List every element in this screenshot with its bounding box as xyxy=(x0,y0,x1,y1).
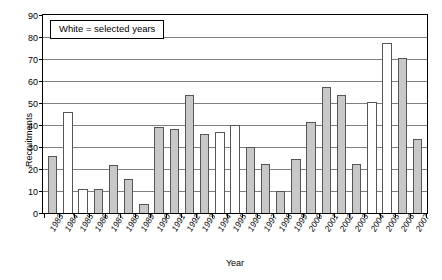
bar-slot xyxy=(197,15,212,213)
bar-slot xyxy=(136,15,151,213)
x-tick-label-slot: 1983 xyxy=(44,218,59,262)
x-tick-label-slot: 1994 xyxy=(212,218,227,262)
bar-slot xyxy=(258,15,273,213)
y-tick-label: 0 xyxy=(33,209,38,219)
y-tick-label: 50 xyxy=(28,99,38,109)
x-tick-label-slot: 1996 xyxy=(243,218,258,262)
bar-1992 xyxy=(185,95,194,213)
bar-2001 xyxy=(322,87,331,214)
y-tick: 0 xyxy=(5,213,43,214)
y-tick: 70 xyxy=(5,59,43,60)
bar-1984 xyxy=(63,112,72,213)
bar-1988 xyxy=(124,179,133,213)
bar-1997 xyxy=(261,164,270,214)
y-tick-label: 40 xyxy=(28,121,38,131)
bar-1983 xyxy=(48,156,57,213)
x-tick-label-slot: 1999 xyxy=(289,218,304,262)
y-tick-label: 80 xyxy=(28,33,38,43)
bar-slot xyxy=(349,15,364,213)
x-tick-label-slot: 1988 xyxy=(120,218,135,262)
bar-slot xyxy=(243,15,258,213)
x-tick-label-slot: 2007 xyxy=(411,218,426,262)
x-tick-label-slot: 1991 xyxy=(166,218,181,262)
x-tick-label-slot: 1985 xyxy=(75,218,90,262)
y-tick: 60 xyxy=(5,81,43,82)
bar-2007 xyxy=(413,139,422,213)
x-tick-label-slot: 2001 xyxy=(319,218,334,262)
bar-1996 xyxy=(246,147,255,213)
bar-chart: Recruitments 9080706050403020100 White =… xyxy=(0,0,442,280)
bar-2002 xyxy=(337,95,346,213)
x-tick-label-slot: 1997 xyxy=(258,218,273,262)
bar-1986 xyxy=(94,189,103,213)
bar-slot xyxy=(319,15,334,213)
bar-1998 xyxy=(276,191,285,213)
x-tick-label-slot: 1986 xyxy=(90,218,105,262)
bar-1993 xyxy=(200,134,209,213)
y-tick: 40 xyxy=(5,125,43,126)
bar-1999 xyxy=(291,159,300,213)
bar-slot xyxy=(106,15,121,213)
x-tick-label-slot: 2000 xyxy=(304,218,319,262)
bar-slot xyxy=(364,15,379,213)
y-tick: 20 xyxy=(5,169,43,170)
y-tick: 50 xyxy=(5,103,43,104)
bar-slot xyxy=(167,15,182,213)
legend-label: White = selected years xyxy=(59,23,155,34)
y-tick: 10 xyxy=(5,191,43,192)
x-tick-label-slot: 1987 xyxy=(105,218,120,262)
x-tick-label-slot: 1992 xyxy=(182,218,197,262)
bar-slot xyxy=(212,15,227,213)
bar-1991 xyxy=(170,129,179,213)
bar-2000 xyxy=(306,122,315,213)
x-tick-label-slot: 1998 xyxy=(273,218,288,262)
bar-slot xyxy=(334,15,349,213)
x-tick-label-slot: 1989 xyxy=(136,218,151,262)
bar-1987 xyxy=(109,165,118,213)
bar-slot xyxy=(45,15,60,213)
bar-1994 xyxy=(215,132,224,213)
bar-slot xyxy=(227,15,242,213)
bar-1985 xyxy=(78,189,87,213)
x-tick-label-slot: 1990 xyxy=(151,218,166,262)
bar-2004 xyxy=(367,102,376,213)
bar-slot xyxy=(273,15,288,213)
bar-2006 xyxy=(398,58,407,213)
bar-series xyxy=(43,15,427,213)
y-tick-label: 30 xyxy=(28,143,38,153)
y-tick-label: 90 xyxy=(28,11,38,21)
y-tick-label: 10 xyxy=(28,187,38,197)
bar-slot xyxy=(60,15,75,213)
y-tick: 30 xyxy=(5,147,43,148)
y-tick-label: 20 xyxy=(28,165,38,175)
x-tick-label-slot: 2006 xyxy=(395,218,410,262)
bar-slot xyxy=(303,15,318,213)
bar-2003 xyxy=(352,164,361,214)
y-tick-label: 60 xyxy=(28,77,38,87)
x-axis-tick-labels: 1983198419851986198719881989199019911992… xyxy=(42,218,428,262)
bar-slot xyxy=(395,15,410,213)
x-tick-label-slot: 1995 xyxy=(227,218,242,262)
bar-slot xyxy=(379,15,394,213)
bar-slot xyxy=(91,15,106,213)
y-tick: 90 xyxy=(5,15,43,16)
bar-slot xyxy=(410,15,425,213)
legend-box: White = selected years xyxy=(50,20,164,39)
bar-slot xyxy=(288,15,303,213)
x-tick-label-slot: 1993 xyxy=(197,218,212,262)
x-tick-label-slot: 1984 xyxy=(59,218,74,262)
y-tick-label: 70 xyxy=(28,55,38,65)
bar-slot xyxy=(151,15,166,213)
y-tick: 80 xyxy=(5,37,43,38)
x-axis-title: Year xyxy=(42,258,428,268)
x-tick-label-slot: 2004 xyxy=(365,218,380,262)
plot-area: 9080706050403020100 xyxy=(42,14,428,214)
bar-1995 xyxy=(230,125,239,213)
bar-slot xyxy=(182,15,197,213)
bar-1990 xyxy=(154,127,163,213)
x-tick-label-slot: 2005 xyxy=(380,218,395,262)
x-tick-label-slot: 2002 xyxy=(334,218,349,262)
bar-slot xyxy=(75,15,90,213)
bar-slot xyxy=(121,15,136,213)
bar-2005 xyxy=(382,43,391,214)
